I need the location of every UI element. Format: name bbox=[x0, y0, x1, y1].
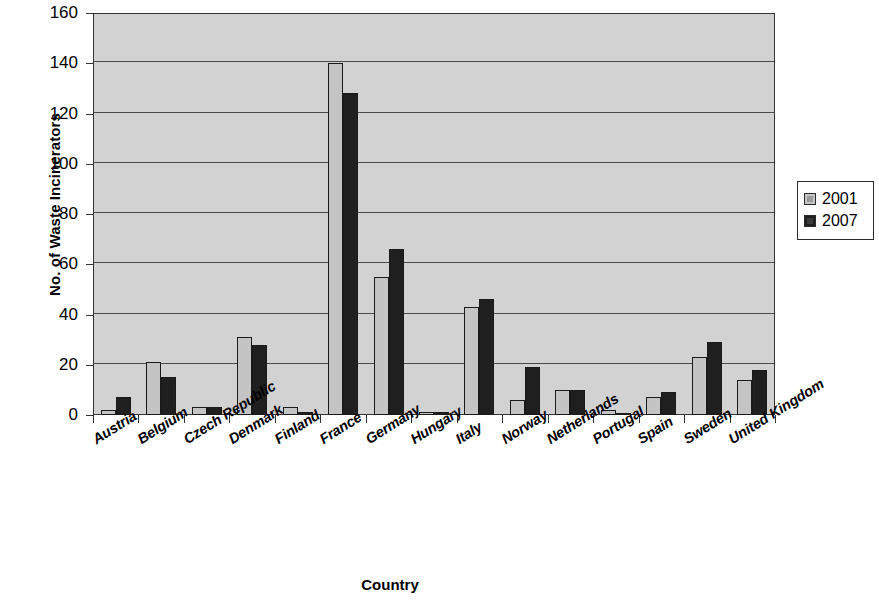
x-label-italy: Italy bbox=[453, 419, 485, 447]
y-tick-label: 60 bbox=[18, 254, 78, 274]
x-tick-mark bbox=[639, 415, 640, 423]
bar-2001[interactable] bbox=[374, 277, 389, 415]
bar-group bbox=[184, 13, 229, 415]
x-tick-mark bbox=[275, 415, 276, 423]
y-tick-mark bbox=[86, 415, 93, 416]
bar-group bbox=[275, 13, 320, 415]
y-tick-mark bbox=[86, 264, 93, 265]
bar-2007[interactable] bbox=[570, 390, 585, 415]
y-tick-mark bbox=[86, 114, 93, 115]
x-tick-mark bbox=[730, 415, 731, 423]
bar-2001[interactable] bbox=[146, 362, 161, 415]
y-tick-label: 40 bbox=[18, 305, 78, 325]
bar-group bbox=[684, 13, 729, 415]
bar-group bbox=[502, 13, 547, 415]
bar-2007[interactable] bbox=[116, 397, 131, 415]
bar-group bbox=[411, 13, 456, 415]
y-tick-mark bbox=[86, 13, 93, 14]
y-tick-label: 120 bbox=[18, 104, 78, 124]
x-tick-mark bbox=[548, 415, 549, 423]
x-tick-mark bbox=[775, 415, 776, 423]
bar-2001[interactable] bbox=[601, 410, 616, 415]
bar-group bbox=[229, 13, 274, 415]
x-tick-mark bbox=[138, 415, 139, 423]
bar-2001[interactable] bbox=[283, 407, 298, 415]
bar-group bbox=[320, 13, 365, 415]
bar-2001[interactable] bbox=[737, 380, 752, 415]
y-tick-label: 80 bbox=[18, 204, 78, 224]
bar-group bbox=[548, 13, 593, 415]
bars-layer bbox=[93, 13, 775, 415]
bar-2001[interactable] bbox=[328, 63, 343, 415]
bar-2007[interactable] bbox=[298, 412, 313, 415]
bar-2001[interactable] bbox=[646, 397, 661, 415]
bar-2007[interactable] bbox=[661, 392, 676, 415]
x-tick-mark bbox=[320, 415, 321, 423]
legend-item-2007[interactable]: 2007 bbox=[804, 210, 868, 232]
bar-2007[interactable] bbox=[161, 377, 176, 415]
bar-2007[interactable] bbox=[207, 407, 222, 415]
y-tick-mark bbox=[86, 315, 93, 316]
y-tick-label: 20 bbox=[18, 355, 78, 375]
x-label-spain: Spain bbox=[635, 413, 676, 447]
bar-group bbox=[730, 13, 775, 415]
bar-2007[interactable] bbox=[343, 93, 358, 415]
bar-2007[interactable] bbox=[525, 367, 540, 415]
bar-2007[interactable] bbox=[616, 413, 631, 415]
bar-2007[interactable] bbox=[389, 249, 404, 415]
bar-group bbox=[93, 13, 138, 415]
x-tick-mark bbox=[229, 415, 230, 423]
y-tick-mark bbox=[86, 365, 93, 366]
y-tick-mark bbox=[86, 164, 93, 165]
bar-2007[interactable] bbox=[252, 345, 267, 415]
bar-2001[interactable] bbox=[192, 407, 207, 415]
x-tick-mark bbox=[684, 415, 685, 423]
legend-item-2001[interactable]: 2001 bbox=[804, 188, 868, 210]
bar-2007[interactable] bbox=[434, 412, 449, 415]
bar-2001[interactable] bbox=[237, 337, 252, 415]
y-tick-mark bbox=[86, 214, 93, 215]
bar-group bbox=[138, 13, 183, 415]
x-tick-mark bbox=[184, 415, 185, 423]
x-tick-mark bbox=[411, 415, 412, 423]
x-tick-mark bbox=[593, 415, 594, 423]
bar-2001[interactable] bbox=[464, 307, 479, 415]
legend-swatch-2001-icon bbox=[804, 193, 816, 205]
legend-label-2007: 2007 bbox=[822, 213, 858, 229]
bar-2001[interactable] bbox=[510, 400, 525, 415]
bar-2001[interactable] bbox=[692, 357, 707, 415]
x-tick-mark bbox=[502, 415, 503, 423]
y-tick-label: 160 bbox=[18, 3, 78, 23]
y-tick-label: 0 bbox=[18, 405, 78, 425]
legend-swatch-2007-icon bbox=[804, 215, 816, 227]
bar-group bbox=[457, 13, 502, 415]
legend: 2001 2007 bbox=[797, 181, 874, 240]
y-tick-label: 140 bbox=[18, 53, 78, 73]
bar-group bbox=[593, 13, 638, 415]
y-tick-label: 100 bbox=[18, 154, 78, 174]
x-axis-title: Country bbox=[320, 576, 460, 593]
x-tick-mark bbox=[366, 415, 367, 423]
x-tick-mark bbox=[93, 415, 94, 423]
bar-2007[interactable] bbox=[752, 370, 767, 415]
bar-2001[interactable] bbox=[101, 410, 116, 415]
bar-2007[interactable] bbox=[707, 342, 722, 415]
bar-group bbox=[639, 13, 684, 415]
y-tick-mark bbox=[86, 63, 93, 64]
bar-chart: No. of Waste Incinerators 02040608010012… bbox=[0, 0, 879, 606]
x-tick-mark bbox=[457, 415, 458, 423]
legend-label-2001: 2001 bbox=[822, 191, 858, 207]
bar-2001[interactable] bbox=[419, 412, 434, 415]
bar-2007[interactable] bbox=[479, 299, 494, 415]
bar-2001[interactable] bbox=[555, 390, 570, 415]
bar-group bbox=[366, 13, 411, 415]
